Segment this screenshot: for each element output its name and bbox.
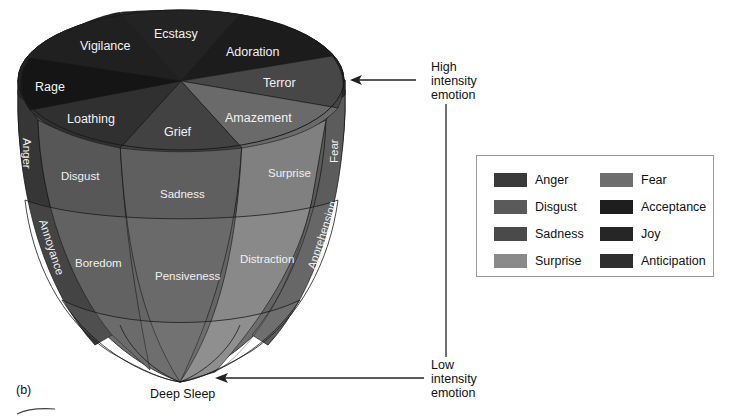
legend-swatch xyxy=(600,173,633,187)
legend-item-surprise: Surprise xyxy=(494,252,582,270)
legend-label: Fear xyxy=(641,173,667,187)
legend-label: Disgust xyxy=(535,200,577,214)
legend-label: Sadness xyxy=(535,227,584,241)
legend-item-anger: Anger xyxy=(494,171,568,189)
legend-swatch xyxy=(600,227,633,241)
label-boredom: Boredom xyxy=(75,257,122,269)
legend-item-anticipation: Anticipation xyxy=(600,252,706,270)
high-label-line2: intensity xyxy=(431,74,478,88)
label-ecstasy: Ecstasy xyxy=(154,27,199,41)
label-vigilance: Vigilance xyxy=(80,39,131,53)
high-label-line1: High xyxy=(431,60,457,74)
legend-item-sadness: Sadness xyxy=(494,225,584,243)
label-pensiveness: Pensiveness xyxy=(155,270,220,282)
low-label-line3: emotion xyxy=(431,386,476,400)
panel-label: (b) xyxy=(16,383,31,397)
legend-label: Anticipation xyxy=(641,254,706,268)
legend: Anger Disgust Sadness Surprise Fear Acce… xyxy=(476,155,714,277)
label-surprise: Surprise xyxy=(268,167,311,179)
legend-swatch xyxy=(494,173,527,187)
label-grief: Grief xyxy=(164,125,192,139)
legend-item-acceptance: Acceptance xyxy=(600,198,706,216)
legend-label: Surprise xyxy=(535,254,582,268)
label-distraction: Distraction xyxy=(240,253,294,265)
label-loathing: Loathing xyxy=(67,112,115,126)
label-fear-vertical: Fear xyxy=(328,139,340,163)
legend-item-fear: Fear xyxy=(600,171,667,189)
legend-item-joy: Joy xyxy=(600,225,660,243)
label-anger-vertical: Anger xyxy=(21,138,33,169)
high-intensity-annotation: High intensity emotion xyxy=(350,60,478,102)
high-label-line3: emotion xyxy=(431,88,476,102)
label-deep-sleep: Deep Sleep xyxy=(150,387,215,401)
low-label-line2: intensity xyxy=(431,372,478,386)
legend-swatch xyxy=(494,227,527,241)
legend-label: Anger xyxy=(535,173,568,187)
legend-label: Joy xyxy=(641,227,660,241)
legend-swatch xyxy=(494,254,527,268)
legend-item-disgust: Disgust xyxy=(494,198,577,216)
label-sadness: Sadness xyxy=(160,188,205,200)
label-rage: Rage xyxy=(35,80,65,94)
legend-swatch xyxy=(600,254,633,268)
low-label-line1: Low xyxy=(431,358,455,372)
scribble-mark xyxy=(17,409,55,414)
label-amazement: Amazement xyxy=(225,111,292,125)
low-intensity-annotation: Low intensity emotion xyxy=(215,358,478,400)
legend-swatch xyxy=(600,200,633,214)
legend-swatch xyxy=(494,200,527,214)
label-disgust: Disgust xyxy=(61,170,100,182)
label-adoration: Adoration xyxy=(226,45,280,59)
label-terror: Terror xyxy=(263,76,296,90)
legend-label: Acceptance xyxy=(641,200,706,214)
